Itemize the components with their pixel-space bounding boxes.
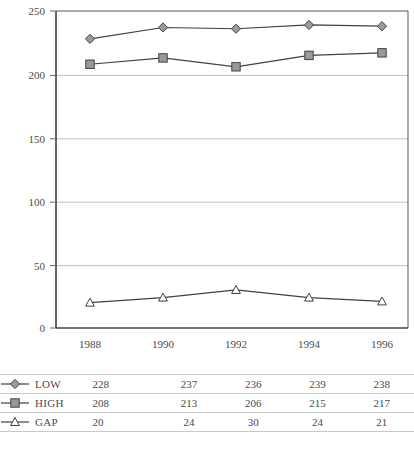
cell-low-1988: 228 [92, 375, 156, 394]
line-chart: 0 50 100 150 200 250 1988 1990 1992 1994… [0, 0, 414, 366]
cell-gap-1988: 20 [92, 413, 156, 432]
table-row: HIGH208213206215217 [0, 394, 414, 413]
ytick-label-200: 200 [29, 69, 46, 81]
legend-marker-square-icon [0, 397, 30, 409]
xtick-label-1988: 1988 [79, 338, 102, 350]
cell-low-1994: 239 [285, 375, 349, 394]
series-label: HIGH [35, 397, 64, 409]
data-point-high-1992 [232, 63, 240, 71]
cell-high-1996: 217 [350, 394, 414, 413]
xtick-label-1990: 1990 [152, 338, 175, 350]
data-point-high-1988 [86, 60, 94, 68]
ytick-label-0: 0 [40, 322, 46, 334]
series-label: LOW [35, 378, 61, 390]
legend-marker-open-triangle-icon [0, 416, 30, 428]
table-row: GAP2024302421 [0, 413, 414, 432]
legend-cell-low: LOW [0, 375, 92, 394]
ytick-label-50: 50 [34, 260, 46, 272]
data-point-high-1990 [159, 54, 167, 62]
chart-canvas: 0 50 100 150 200 250 1988 1990 1992 1994… [0, 0, 414, 366]
series-label: GAP [35, 416, 58, 428]
cell-high-1990: 213 [157, 394, 221, 413]
legend-cell-high: HIGH [0, 394, 92, 413]
cell-high-1994: 215 [285, 394, 349, 413]
legend-marker-diamond-icon [0, 378, 30, 390]
xtick-label-1996: 1996 [371, 338, 394, 350]
cell-low-1990: 237 [157, 375, 221, 394]
legend-inner: LOW [0, 378, 92, 390]
ytick-label-100: 100 [29, 196, 46, 208]
data-table-body: LOW228237236239238HIGH208213206215217GAP… [0, 375, 414, 432]
data-table: LOW228237236239238HIGH208213206215217GAP… [0, 374, 414, 432]
data-point-high-1996 [378, 49, 386, 57]
chart-page: 0 50 100 150 200 250 1988 1990 1992 1994… [0, 0, 414, 454]
cell-gap-1992: 30 [221, 413, 285, 432]
cell-high-1988: 208 [92, 394, 156, 413]
cell-gap-1996: 21 [350, 413, 414, 432]
legend-inner: HIGH [0, 397, 92, 409]
legend-cell-gap: GAP [0, 413, 92, 432]
ytick-label-250: 250 [29, 5, 46, 17]
xtick-label-1992: 1992 [225, 338, 247, 350]
cell-low-1992: 236 [221, 375, 285, 394]
legend-inner: GAP [0, 416, 92, 428]
xtick-label-1994: 1994 [298, 338, 321, 350]
data-point-high-1994 [305, 51, 313, 59]
table-row: LOW228237236239238 [0, 375, 414, 394]
cell-low-1996: 238 [350, 375, 414, 394]
cell-gap-1994: 24 [285, 413, 349, 432]
plot-background [56, 11, 408, 328]
cell-gap-1990: 24 [157, 413, 221, 432]
cell-high-1992: 206 [221, 394, 285, 413]
y-tick-marks [50, 11, 56, 328]
ytick-label-150: 150 [29, 133, 46, 145]
